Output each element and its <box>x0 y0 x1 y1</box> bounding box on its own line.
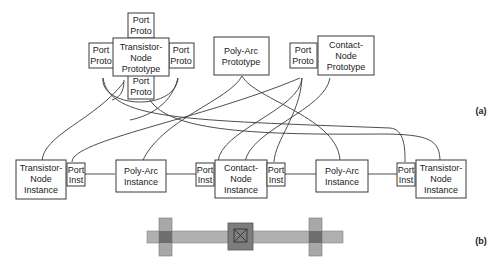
contact-node-prototype-group: Port Proto Contact- Node Prototype <box>290 36 374 75</box>
instance-label: Instance <box>224 185 258 195</box>
port-inst-label: Port <box>68 165 85 175</box>
instance-label: Poly-Arc <box>325 166 360 176</box>
port-proto-label: Port <box>93 45 110 55</box>
proto-label: Transistor- <box>120 42 163 52</box>
port-inst-4: Port Inst <box>397 163 415 186</box>
port-inst-3: Port Inst <box>267 163 285 186</box>
port-inst-2: Port Inst <box>196 163 214 186</box>
instance-label: Instance <box>325 177 359 187</box>
port-inst-label: Inst <box>269 175 284 185</box>
panel-b-label: (b) <box>475 236 487 246</box>
port-proto-right: Port Proto <box>169 43 194 68</box>
port-inst-label: Port <box>268 165 285 175</box>
port-proto-label: Port <box>295 45 312 55</box>
instance-label: Node <box>30 174 52 184</box>
port-proto-label: Proto <box>130 26 152 36</box>
diagram-canvas: Port Proto Port Proto Port Proto Port Pr… <box>0 0 495 265</box>
port-proto-bottom: Port Proto <box>128 74 154 99</box>
instance-label: Transistor- <box>20 163 63 173</box>
port-inst-label: Inst <box>198 175 213 185</box>
panel-a-label: (a) <box>476 106 487 116</box>
port-inst-label: Inst <box>399 175 414 185</box>
contact-node-instance: Contact- Node Instance <box>215 160 267 198</box>
proto-label: Prototype <box>327 62 366 72</box>
transistor-node-instance-right: Transistor- Node Instance <box>416 160 466 198</box>
port-proto-label: Proto <box>170 56 192 66</box>
layout-geometry <box>147 218 343 256</box>
port-proto-contact: Port Proto <box>290 43 317 68</box>
port-proto-label: Proto <box>292 56 314 66</box>
instance-label: Instance <box>24 185 58 195</box>
port-proto-label: Port <box>133 76 150 86</box>
port-proto-label: Port <box>173 45 190 55</box>
instance-label: Instance <box>424 185 458 195</box>
instance-label: Node <box>430 174 452 184</box>
instance-label: Instance <box>124 177 158 187</box>
transistor-node-prototype-group: Port Proto Port Proto Port Proto Port Pr… <box>89 13 194 99</box>
proto-label: Poly-Arc <box>224 46 259 56</box>
connection-wires <box>42 76 440 174</box>
port-inst-label: Port <box>398 165 415 175</box>
proto-label: Node <box>335 51 357 61</box>
port-inst-label: Port <box>197 165 214 175</box>
port-proto-label: Proto <box>90 56 112 66</box>
instance-label: Node <box>230 174 252 184</box>
overlap-left <box>159 231 172 243</box>
poly-arc-instance-left: Poly-Arc Instance <box>116 160 166 192</box>
contact-node-prototype: Contact- Node Prototype <box>318 36 374 75</box>
overlap-right <box>309 231 322 243</box>
contact-node <box>228 223 253 250</box>
port-proto-label: Proto <box>130 87 152 97</box>
transistor-node-prototype: Transistor- Node Prototype <box>113 38 169 76</box>
instance-label: Transistor- <box>420 163 463 173</box>
port-inst-label: Inst <box>69 175 84 185</box>
poly-arc-prototype: Poly-Arc Prototype <box>214 37 269 75</box>
instance-label: Contact- <box>224 163 258 173</box>
poly-arc-instance-right: Poly-Arc Instance <box>316 160 368 192</box>
instance-label: Poly-Arc <box>124 166 159 176</box>
proto-label: Prototype <box>222 57 261 67</box>
transistor-node-instance-left: Transistor- Node Instance <box>16 160 66 199</box>
port-inst-1: Port Inst <box>67 163 85 186</box>
port-proto-top: Port Proto <box>128 13 154 38</box>
proto-label: Prototype <box>122 64 161 74</box>
port-proto-label: Port <box>133 15 150 25</box>
proto-label: Node <box>130 53 152 63</box>
proto-label: Contact- <box>329 40 363 50</box>
port-proto-left: Port Proto <box>89 43 114 68</box>
